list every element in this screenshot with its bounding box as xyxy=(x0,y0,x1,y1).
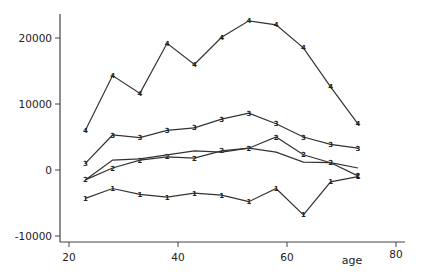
series-1: 11111111111 xyxy=(83,173,361,219)
data-point-marker: 1 xyxy=(328,178,333,186)
data-point-marker: 1 xyxy=(165,194,170,202)
data-point-marker: 3 xyxy=(110,132,115,140)
data-point-marker: 4 xyxy=(274,21,279,29)
data-point-marker: 3 xyxy=(192,124,197,132)
series-group: 1111111111122222222222333333333334444444… xyxy=(83,17,361,219)
data-point-marker: 3 xyxy=(83,160,88,168)
data-point-marker: 2 xyxy=(110,165,115,173)
data-point-marker: 3 xyxy=(355,145,360,153)
data-point-marker: 1 xyxy=(110,185,115,193)
data-point-marker: 2 xyxy=(301,151,306,159)
data-point-marker: 1 xyxy=(274,185,279,193)
y-tick-label: 10000 xyxy=(19,98,52,110)
data-point-marker: 4 xyxy=(165,40,170,48)
x-tick-label: 60 xyxy=(280,251,293,263)
data-point-marker: 4 xyxy=(301,44,306,52)
data-point-marker: 4 xyxy=(192,61,197,69)
data-point-marker: 1 xyxy=(246,198,251,206)
data-point-marker: 4 xyxy=(246,17,251,25)
data-point-marker: 1 xyxy=(219,192,224,200)
data-point-marker: 3 xyxy=(246,110,251,118)
data-point-marker: 4 xyxy=(83,127,88,135)
data-point-marker: 1 xyxy=(137,191,142,199)
x-tick-label: 20 xyxy=(62,251,75,263)
data-point-marker: 4 xyxy=(110,72,115,80)
data-point-marker: 2 xyxy=(83,176,88,184)
data-point-marker: 3 xyxy=(274,120,279,128)
y-tick-label: -10000 xyxy=(15,230,52,242)
data-point-marker: 1 xyxy=(301,211,306,219)
data-point-marker: 2 xyxy=(137,157,142,165)
x-tick-label: 40 xyxy=(171,251,184,263)
series-line xyxy=(85,137,358,180)
data-point-marker: 4 xyxy=(328,83,333,91)
data-point-marker: 4 xyxy=(355,120,360,128)
line-chart: 20000100000-1000020406080 11111111111222… xyxy=(0,0,422,276)
data-point-marker: 3 xyxy=(137,134,142,142)
x-axis-title: age xyxy=(342,254,363,267)
data-point-marker: 3 xyxy=(328,141,333,149)
y-tick-label: 0 xyxy=(45,164,52,176)
data-point-marker: 4 xyxy=(137,90,142,98)
axes: 20000100000-1000020406080 xyxy=(15,14,405,263)
x-tick-label: 80 xyxy=(389,248,402,260)
data-point-marker: 2 xyxy=(355,172,360,180)
data-point-marker: 1 xyxy=(83,195,88,203)
y-tick-label: 20000 xyxy=(19,32,52,44)
data-point-marker: 3 xyxy=(165,127,170,135)
data-point-marker: 3 xyxy=(219,116,224,124)
data-point-marker: 2 xyxy=(274,134,279,142)
data-point-marker: 4 xyxy=(219,34,224,42)
data-point-marker: 2 xyxy=(192,155,197,163)
data-point-marker: 3 xyxy=(301,134,306,142)
data-point-marker: 1 xyxy=(192,190,197,198)
